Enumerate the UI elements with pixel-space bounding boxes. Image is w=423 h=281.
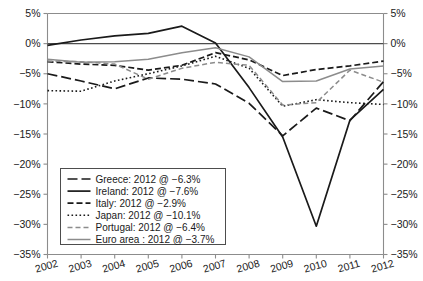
y-tick-label-right: 5% <box>391 7 406 19</box>
y-tick-label-right: −35% <box>391 248 418 260</box>
y-tick-label-left: −5% <box>19 67 40 79</box>
legend-label-italy: Italy: 2012 @ −2.9% <box>96 198 187 209</box>
legend-label-japan: Japan: 2012 @ −10.1% <box>96 210 201 221</box>
line-chart: 5%0%−5%−10%−15%−20%−25%−30%−35% 5%0%−5%−… <box>0 0 423 281</box>
y-tick-label-left: −10% <box>13 98 40 110</box>
y-tick-label-right: −15% <box>391 128 418 140</box>
legend-label-ireland: Ireland: 2012 @ −7.6% <box>96 186 199 197</box>
y-tick-label-right: −25% <box>391 188 418 200</box>
legend-label-greece: Greece: 2012 @ −6.3% <box>96 174 201 185</box>
chart-legend: Greece: 2012 @ −6.3%Ireland: 2012 @ −7.6… <box>61 169 226 246</box>
y-tick-label-right: −10% <box>391 98 418 110</box>
y-tick-label-right: −30% <box>391 218 418 230</box>
y-tick-label-left: 5% <box>25 7 40 19</box>
y-tick-label-right: −20% <box>391 158 418 170</box>
y-tick-label-left: −25% <box>13 188 40 200</box>
y-tick-label-left: −20% <box>13 158 40 170</box>
legend-label-portugal: Portugal: 2012 @ −6.4% <box>96 222 205 233</box>
y-tick-label-left: −30% <box>13 218 40 230</box>
legend-label-euro-area: Euro area : 2012 @ −3.7% <box>96 234 215 245</box>
y-tick-label-right: 0% <box>391 37 406 49</box>
chart-container: 5%0%−5%−10%−15%−20%−25%−30%−35% 5%0%−5%−… <box>0 0 423 281</box>
y-tick-label-left: −35% <box>13 248 40 260</box>
y-tick-label-left: 0% <box>25 37 40 49</box>
y-tick-label-left: −15% <box>13 128 40 140</box>
y-tick-label-right: −5% <box>391 67 412 79</box>
